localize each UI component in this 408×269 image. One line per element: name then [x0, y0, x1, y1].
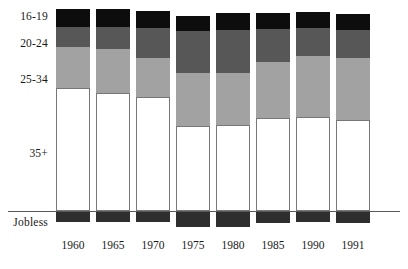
bar-segment-1970-16-19: [136, 11, 170, 28]
bar-segment-1975-20-24: [176, 31, 210, 73]
bar-segment-1965-25-34: [96, 49, 130, 93]
bar-segment-1975-16-19: [176, 16, 210, 31]
bar-segment-1991-Jobless: [336, 211, 370, 223]
legend-label-35plus: 35+: [29, 148, 48, 160]
bar-segment-1990-16-19: [296, 12, 330, 28]
bars-layer: [0, 0, 408, 269]
year-label-1965: 1965: [96, 240, 130, 252]
bar-segment-1970-20-24: [136, 28, 170, 58]
bar-segment-1980-20-24: [216, 30, 250, 73]
bar-segment-1990-Jobless: [296, 211, 330, 222]
legend-label-16-19: 16-19: [20, 11, 48, 23]
bar-segment-1975-35plus: [176, 126, 210, 211]
bar-1970[interactable]: [136, 0, 170, 269]
bar-1960[interactable]: [56, 0, 90, 269]
bar-segment-1960-Jobless: [56, 211, 90, 222]
year-label-1991: 1991: [336, 240, 370, 252]
bar-segment-1985-20-24: [256, 29, 290, 62]
bar-1975[interactable]: [176, 0, 210, 269]
bar-segment-1991-25-34: [336, 58, 370, 120]
bar-segment-1960-16-19: [56, 9, 90, 27]
bar-segment-1965-Jobless: [96, 211, 130, 222]
year-label-1975: 1975: [176, 240, 210, 252]
bar-segment-1980-16-19: [216, 13, 250, 30]
bar-1980[interactable]: [216, 0, 250, 269]
bar-segment-1985-16-19: [256, 13, 290, 29]
bar-1985[interactable]: [256, 0, 290, 269]
bar-segment-1965-16-19: [96, 9, 130, 27]
bar-1991[interactable]: [336, 0, 370, 269]
bar-segment-1975-25-34: [176, 73, 210, 126]
year-label-1980: 1980: [216, 240, 250, 252]
legend-label-20-24: 20-24: [20, 38, 48, 50]
year-label-1985: 1985: [256, 240, 290, 252]
bar-1965[interactable]: [96, 0, 130, 269]
bar-segment-1970-Jobless: [136, 211, 170, 222]
bar-segment-1970-35plus: [136, 97, 170, 211]
legend-label-Jobless: Jobless: [13, 217, 48, 229]
bar-segment-1980-35plus: [216, 125, 250, 211]
bar-segment-1985-Jobless: [256, 211, 290, 223]
bar-segment-1980-25-34: [216, 73, 250, 125]
bar-segment-1991-20-24: [336, 30, 370, 58]
year-label-1990: 1990: [296, 240, 330, 252]
bar-segment-1990-35plus: [296, 117, 330, 211]
bar-segment-1985-35plus: [256, 118, 290, 211]
axis-baseline: [8, 211, 400, 212]
legend-label-25-34: 25-34: [20, 74, 48, 86]
bar-segment-1960-20-24: [56, 27, 90, 47]
bar-segment-1991-35plus: [336, 120, 370, 211]
bar-segment-1980-Jobless: [216, 211, 250, 227]
bar-segment-1990-25-34: [296, 56, 330, 117]
year-label-1960: 1960: [56, 240, 90, 252]
bar-segment-1985-25-34: [256, 62, 290, 118]
bar-segment-1965-35plus: [96, 93, 130, 211]
bar-segment-1990-20-24: [296, 28, 330, 56]
bar-1990[interactable]: [296, 0, 330, 269]
bar-segment-1965-20-24: [96, 27, 130, 49]
bar-segment-1960-25-34: [56, 47, 90, 88]
bar-segment-1991-16-19: [336, 14, 370, 30]
bar-segment-1970-25-34: [136, 58, 170, 97]
stacked-bar-chart: 16-1920-2425-3435+Jobless 19601965197019…: [0, 0, 408, 269]
bar-segment-1975-Jobless: [176, 211, 210, 227]
year-label-1970: 1970: [136, 240, 170, 252]
bar-segment-1960-35plus: [56, 88, 90, 211]
